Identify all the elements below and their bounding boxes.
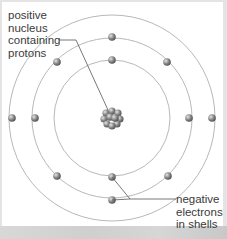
nucleus-label-line: positive	[8, 9, 60, 22]
nucleus-leader-line	[59, 40, 108, 110]
nucleus-label: positive nucleus containing protons	[8, 9, 60, 59]
electrons-label-line: in shells	[176, 218, 223, 231]
nucleus	[100, 107, 123, 129]
nucleus-label-line: protons	[8, 47, 60, 60]
electrons-leader-line	[112, 177, 176, 199]
electrons-label-line: negative	[176, 193, 223, 206]
nucleus-label-line: nucleus	[8, 22, 60, 35]
electrons-label: negative electrons in shells	[176, 193, 223, 231]
nucleus-label-line: containing	[8, 34, 60, 47]
electrons-label-line: electrons	[176, 206, 223, 219]
